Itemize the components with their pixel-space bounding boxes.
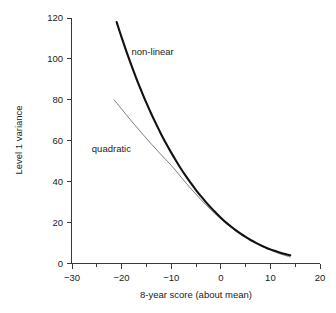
y-tick-label-6: 120 — [47, 12, 63, 23]
x-tick-label-0: −30 — [64, 272, 80, 283]
y-tick-label-1: 20 — [52, 217, 63, 228]
series-line-quadratic — [114, 100, 290, 257]
y-tick-label-4: 80 — [52, 94, 63, 105]
y-tick-label-0: 0 — [58, 258, 63, 269]
axes — [72, 18, 321, 264]
x-tick-label-5: 20 — [315, 272, 326, 283]
annotation-non-linear: non-linear — [132, 46, 174, 57]
y-tick-label-2: 40 — [52, 176, 63, 187]
y-tick-label-5: 100 — [47, 53, 63, 64]
x-tick-label-4: 10 — [265, 272, 276, 283]
annotation-quadratic: quadratic — [92, 143, 131, 154]
chart-figure: −30−20−1001020 020406080100120 non-linea… — [0, 0, 336, 313]
x-axis-tick-labels: −30−20−1001020 — [64, 272, 325, 283]
data-series — [114, 22, 290, 257]
y-axis-tick-labels: 020406080100120 — [47, 12, 63, 269]
series-annotations: non-linearquadratic — [92, 46, 174, 154]
level1-variance-chart: −30−20−1001020 020406080100120 non-linea… — [0, 0, 336, 313]
y-tick-label-3: 60 — [52, 135, 63, 146]
x-tick-label-2: −10 — [163, 272, 179, 283]
series-line-non-linear — [117, 22, 291, 255]
y-axis-title: Level 1 variance — [13, 105, 24, 174]
x-axis-minor-ticks — [97, 264, 295, 268]
x-tick-label-3: 0 — [218, 272, 223, 283]
x-axis-title: 8-year score (about mean) — [140, 289, 252, 300]
x-tick-label-1: −20 — [114, 272, 130, 283]
